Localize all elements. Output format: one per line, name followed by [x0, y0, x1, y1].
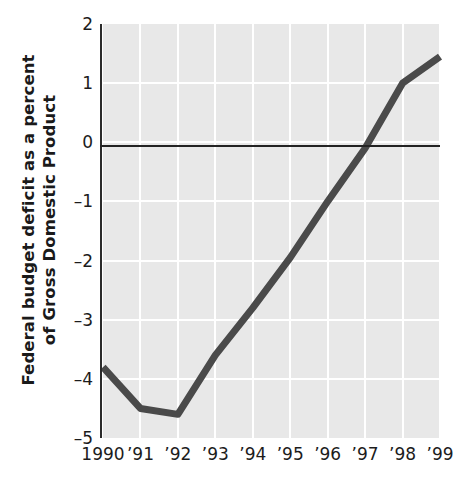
- y-axis-tick-labels: 210–1–2–3–4–5: [68, 0, 100, 479]
- x-tick-label: ’97: [352, 446, 379, 463]
- data-series-line: [103, 24, 440, 438]
- y-tick-label: 1: [68, 75, 100, 92]
- y-axis-title-line-2: of Gross Domestic Product: [40, 95, 59, 345]
- x-tick-label: 1990: [81, 446, 124, 463]
- y-tick-label: –3: [68, 312, 100, 329]
- x-tick-label: ’98: [389, 446, 416, 463]
- y-axis-title: Federal budget deficit as a percent of G…: [0, 0, 78, 440]
- x-tick-label: ’94: [239, 446, 266, 463]
- x-tick-label: ’99: [426, 446, 453, 463]
- x-tick-label: ’93: [202, 446, 229, 463]
- x-tick-label: ’95: [277, 446, 304, 463]
- series-polyline: [103, 57, 440, 415]
- y-tick-label: –1: [68, 193, 100, 210]
- y-tick-label: 0: [68, 134, 100, 151]
- x-tick-label: ’96: [314, 446, 341, 463]
- chart-figure: Federal budget deficit as a percent of G…: [0, 0, 463, 479]
- x-tick-label: ’92: [164, 446, 191, 463]
- y-tick-label: –2: [68, 253, 100, 270]
- plot-area: [103, 24, 440, 438]
- y-tick-label: –4: [68, 371, 100, 388]
- y-axis-title-line-1: Federal budget deficit as a percent: [19, 54, 38, 385]
- zero-reference-line: [100, 145, 440, 147]
- y-axis-line: [100, 24, 102, 438]
- x-axis-tick-labels: 1990’91’92’93’94’95’96’97’98’99: [0, 446, 463, 474]
- x-tick-label: ’91: [127, 446, 154, 463]
- y-tick-label: 2: [68, 16, 100, 33]
